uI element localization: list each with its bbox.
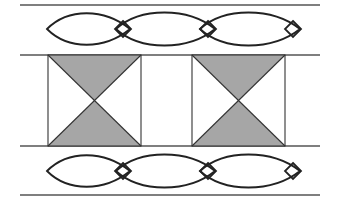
lens-1 [47, 155, 130, 187]
pattern-diagram [0, 0, 338, 207]
square-right [192, 55, 285, 146]
shaded-top-triangle [48, 55, 141, 101]
shaded-top-triangle [192, 55, 285, 101]
shaded-bottom-triangle [192, 101, 285, 147]
shaded-bottom-triangle [48, 101, 141, 147]
bottom-lens-chain [47, 155, 301, 188]
lens-1 [47, 13, 130, 45]
top-lens-chain [47, 13, 301, 46]
square-left [48, 55, 141, 146]
horizontal-lines [20, 5, 320, 195]
